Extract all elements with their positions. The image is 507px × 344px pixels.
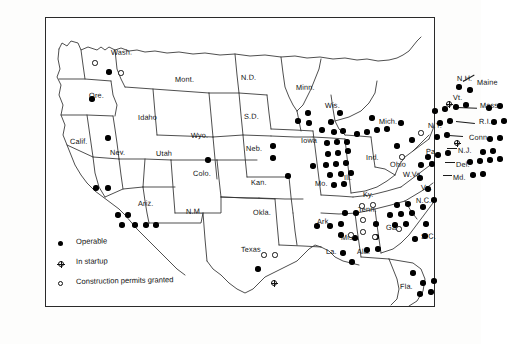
plant-marker-operable — [285, 173, 290, 178]
plant-marker-operable — [343, 160, 348, 165]
label-leader-line — [443, 175, 452, 176]
plant-marker-operable — [467, 159, 472, 164]
plant-marker-operable — [403, 221, 408, 226]
state-label-calif: Calif. — [70, 137, 88, 146]
plant-marker-operable — [456, 84, 461, 89]
label-leader-line — [449, 135, 463, 137]
state-label-idaho: Idaho — [138, 113, 157, 122]
plant-marker-operable — [387, 212, 392, 217]
plant-marker-operable — [255, 266, 260, 271]
plant-marker-operable — [398, 211, 403, 216]
plant-marker-operable — [434, 134, 439, 139]
plant-marker-construction-permit — [399, 154, 404, 159]
plant-marker-operable — [319, 127, 324, 132]
plant-marker-operable — [331, 129, 336, 134]
plant-marker-operable — [490, 148, 495, 153]
plant-marker-operable — [333, 161, 338, 166]
plant-marker-operable — [205, 157, 210, 162]
plant-marker-operable — [442, 106, 447, 111]
plant-marker-operable — [437, 120, 442, 125]
plant-marker-operable — [491, 119, 496, 124]
plant-marker-operable — [405, 201, 410, 206]
state-label-ky: Ky. — [363, 190, 374, 199]
plant-marker-construction-permit — [348, 232, 353, 237]
state-label-kan: Kan. — [251, 178, 267, 187]
plant-marker-operable — [364, 247, 369, 252]
legend-label-in-startup: In startup — [76, 256, 108, 266]
legend-label-operable: Operable — [76, 236, 107, 246]
plant-marker-operable — [374, 127, 379, 132]
plant-marker-operable — [337, 110, 342, 115]
plant-marker-operable — [314, 223, 319, 228]
plant-marker-operable — [327, 172, 332, 177]
plant-marker-operable — [486, 105, 491, 110]
plant-marker-operable — [338, 232, 343, 237]
plant-marker-operable — [497, 156, 502, 161]
plant-marker-operable — [323, 162, 328, 167]
plant-marker-operable — [447, 118, 452, 123]
label-leader-line — [447, 148, 457, 149]
plant-marker-operable — [115, 212, 120, 217]
plant-marker-operable — [153, 222, 158, 227]
plant-marker-construction-permit — [372, 234, 377, 239]
plant-marker-operable — [342, 210, 347, 215]
state-label-nev: Nev. — [110, 148, 125, 157]
plant-marker-operable — [306, 120, 311, 125]
plant-marker-construction-permit — [261, 252, 266, 257]
plant-marker-operable — [497, 103, 502, 108]
plant-marker-construction-permit — [360, 229, 365, 234]
plant-marker-operable — [431, 197, 436, 202]
plant-marker-operable — [412, 236, 417, 241]
state-label-iowa: Iowa — [301, 136, 317, 145]
plant-marker-operable — [125, 212, 130, 217]
plant-marker-operable — [328, 119, 333, 124]
plant-marker-operable — [445, 150, 450, 155]
plant-marker-operable — [295, 118, 300, 123]
plant-marker-operable — [331, 182, 336, 187]
plant-marker-operable — [463, 102, 468, 107]
plant-marker-operable — [467, 87, 472, 92]
plant-marker-operable — [497, 135, 502, 140]
plant-marker-operable — [384, 126, 389, 131]
plant-marker-operable — [354, 131, 359, 136]
plant-marker-operable — [420, 204, 425, 209]
plant-marker-operable — [143, 222, 148, 227]
plant-marker-operable — [270, 143, 275, 148]
plant-marker-operable — [341, 181, 346, 186]
plant-marker-construction-permit — [92, 60, 97, 65]
state-label-mo: Mo. — [315, 179, 328, 188]
plant-marker-operable — [394, 202, 399, 207]
state-label-vt: Vt. — [453, 93, 463, 102]
plant-marker-operable — [444, 132, 449, 137]
plant-marker-construction-permit — [272, 252, 277, 257]
plant-marker-operable — [453, 104, 458, 109]
state-label-mich: Mich. — [379, 117, 397, 126]
plant-marker-operable — [338, 171, 343, 176]
plant-marker-operable — [480, 171, 485, 176]
plant-marker-operable — [429, 161, 434, 166]
crossed-circle-icon — [58, 261, 64, 267]
state-label-maine: Maine — [477, 78, 498, 87]
plant-marker-operable — [422, 233, 427, 238]
label-leader-line — [456, 121, 475, 124]
plant-marker-operable — [310, 163, 315, 168]
plant-marker-construction-permit — [396, 226, 401, 231]
plant-marker-operable — [132, 222, 137, 227]
plant-marker-operable — [105, 135, 110, 140]
plant-marker-operable — [340, 128, 345, 133]
plant-marker-operable — [423, 221, 428, 226]
state-label-wash: Wash. — [111, 48, 132, 57]
state-label-ind: Ind. — [366, 153, 379, 162]
plant-marker-operable — [425, 186, 430, 191]
state-label-nm: N.M. — [186, 207, 202, 216]
state-label-wis: Wis. — [325, 101, 340, 110]
state-label-nh: N.H. — [457, 74, 472, 83]
state-label-fla: Fla. — [400, 282, 413, 291]
plant-marker-operable — [425, 154, 430, 159]
plant-marker-operable — [373, 221, 378, 226]
state-label-ariz: Ariz. — [138, 199, 153, 208]
plant-marker-operable — [480, 149, 485, 154]
plant-marker-operable — [410, 270, 415, 275]
plant-marker-operable — [369, 115, 374, 120]
plant-marker-construction-permit — [359, 203, 364, 208]
